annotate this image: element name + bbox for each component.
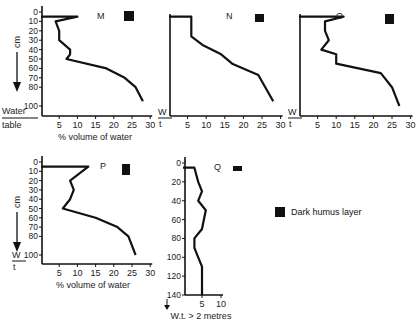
x-tick-label: 5 bbox=[57, 268, 62, 278]
x-tick-label: 5 bbox=[199, 299, 204, 309]
x-tick-label: 15 bbox=[91, 120, 101, 130]
x-tick-label: 10 bbox=[72, 268, 82, 278]
down-arrow-icon bbox=[13, 82, 21, 92]
chart-title: O bbox=[336, 11, 343, 21]
y-tick-label: 0 bbox=[176, 158, 181, 168]
humus-marker-icon bbox=[233, 166, 242, 171]
wt-label: W bbox=[12, 250, 21, 260]
x-tick-label: 20 bbox=[368, 120, 378, 130]
moisture-profile-line bbox=[299, 17, 399, 106]
y-tick-label: 120 bbox=[167, 271, 181, 281]
water-table-label: Water bbox=[2, 106, 26, 116]
x-tick-label: 30 bbox=[406, 120, 416, 130]
x-tick-label: 5 bbox=[185, 120, 190, 130]
chart-title: P bbox=[100, 161, 106, 171]
x-tick-label: 10 bbox=[216, 299, 226, 309]
x-tick-label: 20 bbox=[109, 268, 119, 278]
x-tick-label: 10 bbox=[72, 120, 82, 130]
x-tick-label: 10 bbox=[201, 120, 211, 130]
x-tick-label: 25 bbox=[257, 120, 267, 130]
svg-text:t: t bbox=[289, 119, 292, 129]
y-tick-label: 80 bbox=[29, 82, 39, 92]
moisture-profile-line bbox=[41, 167, 136, 255]
svg-text:t: t bbox=[13, 262, 16, 272]
x-axis-title: % volume of water bbox=[56, 280, 130, 290]
x-tick-label: 15 bbox=[350, 120, 360, 130]
x-tick-label: 20 bbox=[238, 120, 248, 130]
x-tick-label: 25 bbox=[127, 120, 137, 130]
wt-label: W bbox=[288, 107, 297, 117]
legend: Dark humus layer bbox=[275, 207, 362, 217]
q-note: W.t. > 2 metres bbox=[171, 311, 232, 321]
chart-title: N bbox=[226, 11, 233, 21]
y-axis-unit: cm bbox=[12, 196, 22, 208]
y-tick-label: 140 bbox=[167, 290, 181, 300]
down-arrow-icon bbox=[164, 305, 170, 310]
x-tick-label: 5 bbox=[315, 120, 320, 130]
y-axis-unit: cm bbox=[12, 36, 22, 48]
x-tick-label: 30 bbox=[276, 120, 286, 130]
y-tick-label: 100 bbox=[24, 250, 38, 260]
y-tick-label: 100 bbox=[167, 252, 181, 262]
x-tick-label: 25 bbox=[127, 268, 137, 278]
moisture-profile-line bbox=[169, 17, 273, 102]
moisture-profile-line bbox=[41, 17, 143, 102]
humus-marker-icon bbox=[255, 14, 264, 22]
humus-marker-icon bbox=[385, 14, 394, 24]
legend-label: Dark humus layer bbox=[291, 207, 362, 217]
y-tick-label: 80 bbox=[172, 233, 182, 243]
humus-swatch-icon bbox=[275, 207, 285, 217]
x-tick-label: 30 bbox=[145, 120, 155, 130]
x-tick-label: 30 bbox=[145, 268, 155, 278]
x-tick-label: 20 bbox=[109, 120, 119, 130]
wt-label: W bbox=[158, 107, 167, 117]
chart-title: M bbox=[97, 11, 105, 21]
x-tick-label: 10 bbox=[331, 120, 341, 130]
humus-marker-icon bbox=[124, 11, 134, 21]
soil-moisture-figure: 5101520253001020304050607080100M% volume… bbox=[0, 0, 418, 329]
svg-text:t: t bbox=[159, 119, 162, 129]
x-tick-label: 5 bbox=[57, 120, 62, 130]
x-axis-title: % volume of water bbox=[58, 132, 132, 142]
x-tick-label: 15 bbox=[220, 120, 230, 130]
y-tick-label: 20 bbox=[172, 177, 182, 187]
x-tick-label: 25 bbox=[387, 120, 397, 130]
y-tick-label: 60 bbox=[172, 215, 182, 225]
y-tick-label: 40 bbox=[172, 196, 182, 206]
svg-text:table: table bbox=[2, 120, 22, 130]
y-tick-label: 100 bbox=[24, 101, 38, 111]
chart-title: Q bbox=[214, 162, 221, 172]
humus-marker-icon bbox=[122, 164, 130, 175]
y-tick-label: 80 bbox=[29, 231, 39, 241]
moisture-profile-line bbox=[183, 168, 206, 295]
x-tick-label: 15 bbox=[91, 268, 101, 278]
